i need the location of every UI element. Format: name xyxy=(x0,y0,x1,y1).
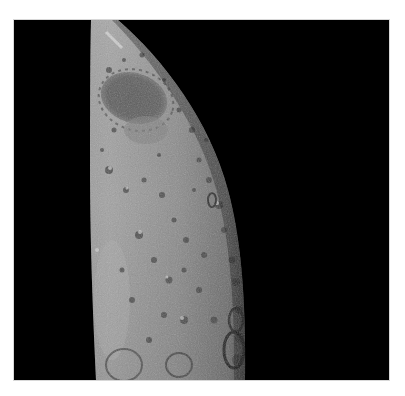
moon-surface-graphic xyxy=(14,20,389,380)
moon-photograph xyxy=(14,20,389,380)
